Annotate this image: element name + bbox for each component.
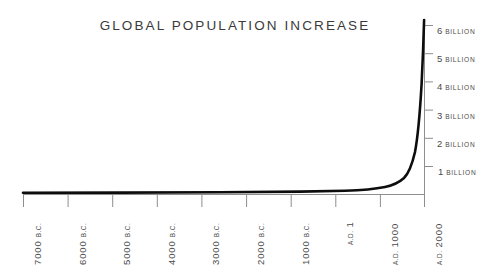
- x-axis-era: B.C.: [35, 223, 42, 237]
- x-axis-label-5000-bc: 5000B.C.: [117, 223, 133, 265]
- x-axis-value: 1: [344, 221, 355, 227]
- y-axis-label-6-billion: 6BILLION: [437, 21, 475, 37]
- x-axis-value: 4000: [166, 240, 177, 265]
- population-chart: GLOBAL POPULATION INCREASE: [0, 0, 500, 272]
- y-axis-value: 5: [437, 53, 443, 64]
- y-axis-label-4-billion: 4BILLION: [437, 77, 475, 93]
- x-axis-value: 6000: [77, 240, 88, 265]
- y-axis-unit: BILLION: [445, 141, 475, 148]
- y-axis-label-3-billion: 3BILLION: [437, 106, 475, 122]
- x-axis-label-7000-bc: 7000B.C.: [28, 223, 44, 265]
- population-curve: [23, 20, 424, 193]
- x-axis-era: A.D.: [436, 251, 443, 265]
- x-axis-label-ad-1: A.D.1: [340, 221, 356, 245]
- y-axis-value: 2: [437, 138, 443, 149]
- y-axis-value: 6: [437, 25, 443, 36]
- x-axis-era: B.C.: [80, 223, 87, 237]
- y-axis-label-2-billion: 2BILLION: [437, 134, 475, 150]
- x-axis-label-4000-bc: 4000B.C.: [162, 223, 178, 265]
- y-axis-value: 3: [437, 110, 443, 121]
- y-tick-marks: [425, 26, 433, 167]
- y-axis-unit: BILLION: [445, 28, 475, 35]
- x-axis-value: 1000: [389, 223, 400, 248]
- x-axis-label-3000-bc: 3000B.C.: [206, 223, 222, 265]
- x-axis-era: B.C.: [169, 223, 176, 237]
- y-axis-unit: BILLION: [446, 169, 476, 176]
- y-axis-value: 1: [438, 166, 444, 177]
- y-axis-label-1-billion: 1BILLION: [438, 162, 476, 178]
- x-axis-value: 2000: [255, 240, 266, 265]
- y-axis-unit: BILLION: [445, 84, 475, 91]
- y-axis-value: 4: [437, 81, 443, 92]
- x-axis-value: 3000: [210, 240, 221, 265]
- x-axis-value: 5000: [121, 240, 132, 265]
- x-axis-era: A.D.: [392, 251, 399, 265]
- x-axis-value: 1000: [300, 240, 311, 265]
- x-axis-era: B.C.: [258, 223, 265, 237]
- x-axis-era: B.C.: [303, 223, 310, 237]
- x-axis-era: B.C.: [124, 223, 131, 237]
- y-axis-unit: BILLION: [445, 113, 475, 120]
- x-axis-value: 7000: [32, 240, 43, 265]
- y-axis-unit: BILLION: [445, 56, 475, 63]
- x-axis-era: A.D.: [347, 231, 354, 245]
- x-axis-value: 2000: [433, 223, 444, 248]
- x-axis-label-ad-1000: A.D.1000: [385, 223, 401, 265]
- x-axis-label-1000-bc: 1000B.C.: [296, 223, 312, 265]
- x-tick-marks: [24, 195, 425, 207]
- x-axis-label-6000-bc: 6000B.C.: [73, 223, 89, 265]
- x-axis-label-ad-2000: A.D.2000: [429, 223, 445, 265]
- x-axis-label-2000-bc: 2000B.C.: [251, 223, 267, 265]
- x-axis-era: B.C.: [213, 223, 220, 237]
- y-axis-label-5-billion: 5BILLION: [437, 49, 475, 65]
